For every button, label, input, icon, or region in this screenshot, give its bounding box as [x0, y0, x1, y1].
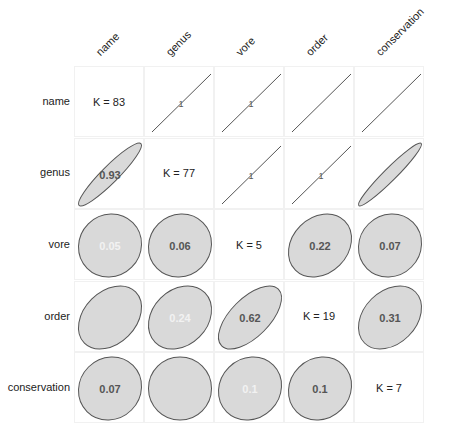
correlation-value: 0.07 [379, 240, 400, 252]
matrix-cell-name-order [284, 66, 354, 137]
matrix-cell-order-vore: 0.62 [214, 281, 284, 352]
category-count-label: K = 83 [75, 96, 143, 108]
matrix-cell-vore-order: 0.22 [284, 209, 354, 280]
matrix-cell-conservation-conservation: K = 7 [354, 352, 424, 423]
matrix-cell-conservation-vore: 0.1 [214, 352, 284, 423]
matrix-cell-genus-genus: K = 77 [144, 138, 214, 209]
matrix-cell-conservation-name: 0.07 [74, 352, 144, 423]
matrix-cell-genus-vore: 1 [214, 138, 284, 209]
correlation-value: 0.22 [309, 240, 330, 252]
column-label-genus: genus [164, 28, 194, 58]
category-count-label: K = 19 [285, 310, 353, 322]
correlation-value: 0.31 [379, 311, 400, 323]
correlation-value: 0.07 [99, 383, 120, 395]
row-label-conservation: conservation [4, 381, 70, 393]
correlation-value: 0.05 [99, 240, 120, 252]
correlation-ellipse [354, 138, 425, 209]
category-count-label: K = 7 [355, 382, 423, 394]
column-label-name: name [94, 30, 122, 58]
matrix-cell-order-genus: 0.24 [144, 281, 214, 352]
column-label-conservation: conservation [374, 5, 427, 58]
column-label-order: order [304, 31, 331, 58]
correlation-value: 0.24 [169, 311, 191, 323]
column-label-vore: vore [234, 34, 258, 58]
correlation-value: 0.1 [312, 383, 327, 395]
correlation-value: 0.1 [242, 383, 257, 395]
matrix-cell-conservation-order: 0.1 [284, 352, 354, 423]
correlation-value: 1 [318, 171, 323, 181]
matrix-cell-vore-name: 0.05 [74, 209, 144, 280]
correlation-value: 1 [178, 99, 183, 109]
correlation-ellipse [135, 344, 224, 433]
matrix-cell-name-name: K = 83 [74, 66, 144, 137]
row-label-name: name [4, 95, 70, 107]
perfect-correlation-line [292, 74, 351, 132]
correlation-value: 1 [248, 99, 253, 109]
row-label-genus: genus [4, 166, 70, 178]
matrix-cell-order-order: K = 19 [284, 281, 354, 352]
correlation-matrix-chart: namegenusvoreorderconservationnamegenusv… [0, 0, 451, 444]
matrix-cell-vore-genus: 0.06 [144, 209, 214, 280]
correlation-value: 0.62 [239, 311, 260, 323]
matrix-cell-conservation-genus [144, 352, 214, 423]
matrix-cell-vore-vore: K = 5 [214, 209, 284, 280]
matrix-cell-order-name [74, 281, 144, 352]
matrix-cell-name-vore: 1 [214, 66, 284, 137]
correlation-value: 0.93 [99, 168, 120, 180]
correlation-value: 0.06 [169, 240, 190, 252]
correlation-ellipse [66, 273, 154, 361]
matrix-cell-genus-order: 1 [284, 138, 354, 209]
row-label-vore: vore [4, 238, 70, 250]
category-count-label: K = 77 [145, 167, 213, 179]
matrix-cell-order-conservation: 0.31 [354, 281, 424, 352]
matrix-cell-name-conservation [354, 66, 424, 137]
matrix-cell-genus-name: 0.93 [74, 138, 144, 209]
matrix-cell-name-genus: 1 [144, 66, 214, 137]
row-label-order: order [4, 310, 70, 322]
category-count-label: K = 5 [215, 239, 283, 251]
correlation-value: 1 [248, 171, 253, 181]
matrix-cell-genus-conservation [354, 138, 424, 209]
perfect-correlation-line [362, 74, 421, 132]
matrix-cell-vore-conservation: 0.07 [354, 209, 424, 280]
